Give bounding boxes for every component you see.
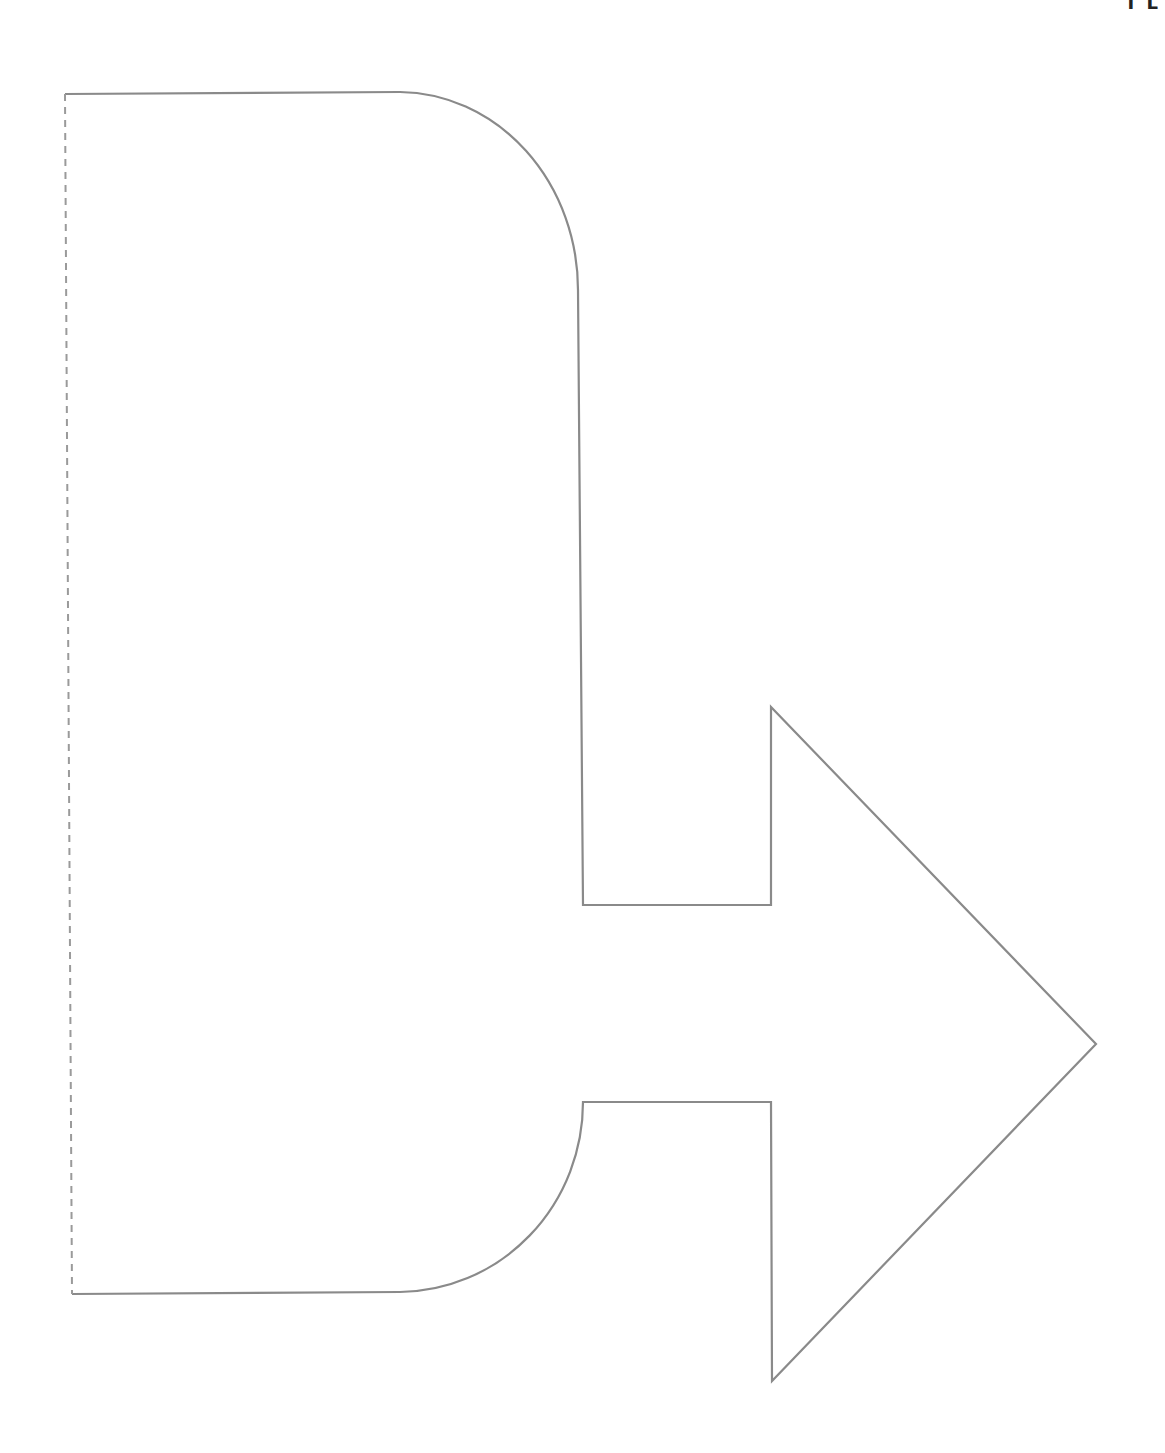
arrow-outline (65, 92, 1096, 1381)
dashed-fold-line (65, 94, 72, 1294)
arrow-template-diagram (0, 0, 1165, 1453)
